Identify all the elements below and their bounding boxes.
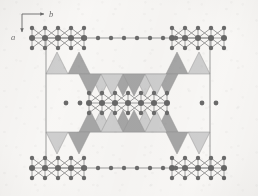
atom-cluster-top-left bbox=[68, 35, 74, 41]
atom-cluster-top-left bbox=[43, 46, 47, 50]
atom-top-cell-edge-atoms bbox=[83, 36, 87, 40]
atom-cluster-bottom-right bbox=[221, 165, 227, 171]
atom-layer bbox=[29, 26, 227, 180]
atom-cluster-top-right bbox=[183, 26, 187, 30]
atom-cluster-bottom-right bbox=[182, 165, 188, 171]
atom-cluster-top-left bbox=[82, 46, 86, 50]
atom-cluster-bottom-right bbox=[209, 156, 213, 160]
atom-cluster-bottom-left bbox=[29, 165, 35, 171]
atom-cluster-bottom-right bbox=[195, 165, 201, 171]
atom-top-cell-edge-atoms bbox=[135, 36, 139, 40]
atom-cluster-top-left bbox=[55, 35, 61, 41]
atom-cluster-top-right bbox=[196, 46, 200, 50]
atom-top-cell-edge-atoms bbox=[109, 36, 113, 40]
atom-cluster-bottom-left bbox=[30, 156, 34, 160]
atom-cluster-top-left bbox=[56, 46, 60, 50]
atom-top-cell-edge-atoms bbox=[96, 36, 100, 40]
polyhedron-triangle-dark bbox=[166, 52, 188, 74]
atom-cluster-top-right bbox=[209, 26, 213, 30]
atom-cluster-center bbox=[139, 91, 143, 95]
atom-cluster-bottom-left bbox=[42, 165, 48, 171]
atom-cluster-top-right bbox=[196, 26, 200, 30]
atom-top-cell-edge-atoms bbox=[148, 36, 152, 40]
atom-cluster-bottom-right bbox=[209, 176, 213, 180]
atom-cluster-center bbox=[165, 111, 169, 115]
atom-cluster-top-right bbox=[183, 46, 187, 50]
atom-cluster-bottom-left bbox=[69, 156, 73, 160]
atom-cluster-bottom-right bbox=[222, 176, 226, 180]
atom-bottom-cell-edge-atoms bbox=[174, 166, 178, 170]
atom-cluster-center bbox=[152, 91, 156, 95]
atom-cluster-bottom-right bbox=[222, 156, 226, 160]
atom-cluster-center bbox=[100, 91, 104, 95]
atom-cluster-bottom-right bbox=[183, 176, 187, 180]
atom-cluster-center bbox=[87, 111, 91, 115]
polyhedron-triangle-light bbox=[46, 132, 68, 154]
structure-plot: ba bbox=[0, 0, 258, 196]
polyhedron-triangle-light bbox=[46, 52, 68, 74]
atom-cluster-top-right bbox=[208, 35, 214, 41]
atom-cluster-center bbox=[86, 100, 92, 106]
atom-cluster-bottom-right bbox=[196, 156, 200, 160]
axis-label-b: b bbox=[49, 9, 53, 19]
atom-cluster-top-left bbox=[30, 46, 34, 50]
atom-isolated-left-2 bbox=[78, 101, 83, 106]
atom-cluster-bottom-right bbox=[170, 176, 174, 180]
atom-bottom-cell-edge-atoms bbox=[148, 166, 152, 170]
atom-cluster-center bbox=[126, 111, 130, 115]
atom-bottom-cell-edge-atoms bbox=[83, 166, 87, 170]
atom-bottom-cell-edge-atoms bbox=[109, 166, 113, 170]
atom-isolated-right-2 bbox=[214, 101, 219, 106]
atom-cluster-top-left bbox=[30, 26, 34, 30]
atom-cluster-top-right bbox=[195, 35, 201, 41]
atom-bottom-cell-edge-atoms bbox=[96, 166, 100, 170]
atom-bottom-cell-edge-atoms bbox=[135, 166, 139, 170]
atom-cluster-bottom-left bbox=[43, 156, 47, 160]
atom-cluster-center bbox=[100, 111, 104, 115]
polyhedron-triangle-light bbox=[188, 52, 210, 74]
atom-cluster-top-right bbox=[182, 35, 188, 41]
atom-cluster-top-left bbox=[82, 26, 86, 30]
atom-cluster-center bbox=[165, 91, 169, 95]
atom-top-cell-edge-atoms bbox=[161, 36, 165, 40]
polyhedron-triangle-dark bbox=[68, 52, 90, 74]
atom-cluster-top-right bbox=[170, 46, 174, 50]
atom-cluster-center bbox=[87, 91, 91, 95]
atom-cluster-center bbox=[151, 100, 157, 106]
atom-cluster-bottom-left bbox=[82, 156, 86, 160]
atom-cluster-center bbox=[113, 111, 117, 115]
atom-cluster-bottom-left bbox=[69, 176, 73, 180]
atom-top-cell-edge-atoms bbox=[174, 36, 178, 40]
atom-cluster-top-right bbox=[209, 46, 213, 50]
atom-cluster-bottom-right bbox=[208, 165, 214, 171]
atom-bottom-cell-edge-atoms bbox=[122, 166, 126, 170]
atom-cluster-bottom-left bbox=[55, 165, 61, 171]
atom-cluster-center bbox=[139, 111, 143, 115]
atom-cluster-top-right bbox=[170, 26, 174, 30]
atom-cluster-top-right bbox=[222, 26, 226, 30]
atom-cluster-top-left bbox=[69, 26, 73, 30]
atom-cluster-top-right bbox=[221, 35, 227, 41]
atom-cluster-bottom-left bbox=[82, 176, 86, 180]
atom-cluster-bottom-right bbox=[183, 156, 187, 160]
atom-cluster-center bbox=[99, 100, 105, 106]
atom-cluster-center bbox=[113, 91, 117, 95]
atom-cluster-center bbox=[125, 100, 131, 106]
atom-cluster-center bbox=[152, 111, 156, 115]
atom-cluster-bottom-left bbox=[30, 176, 34, 180]
atom-cluster-top-left bbox=[29, 35, 35, 41]
atom-isolated-right-1 bbox=[200, 101, 205, 106]
atom-cluster-top-left bbox=[42, 35, 48, 41]
atom-cluster-top-left bbox=[43, 26, 47, 30]
atom-cluster-top-left bbox=[69, 46, 73, 50]
atom-cluster-bottom-left bbox=[56, 156, 60, 160]
atom-cluster-center bbox=[164, 100, 170, 106]
atom-cluster-bottom-right bbox=[196, 176, 200, 180]
polyhedron-triangle-dark bbox=[166, 132, 188, 154]
atom-cluster-center bbox=[112, 100, 118, 106]
atom-cluster-top-right bbox=[222, 46, 226, 50]
atom-cluster-center bbox=[138, 100, 144, 106]
atom-cluster-bottom-left bbox=[68, 165, 74, 171]
atom-top-cell-edge-atoms bbox=[122, 36, 126, 40]
crystal-structure-figure: ba bbox=[0, 0, 258, 196]
